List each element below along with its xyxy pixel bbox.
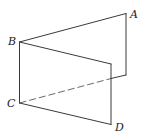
label-A: A (129, 8, 138, 21)
edge-C-A-bottom-hidden (20, 79, 112, 104)
label-D: D (114, 121, 124, 134)
dihedral-figure: A B C D (0, 0, 145, 137)
label-B: B (7, 35, 16, 48)
label-C: C (7, 97, 16, 110)
edge-C-D (20, 103, 112, 125)
edge-A-bottom-visible (111, 75, 126, 79)
edge-B-A-top (20, 14, 127, 43)
edge-B-front-top (20, 42, 112, 64)
